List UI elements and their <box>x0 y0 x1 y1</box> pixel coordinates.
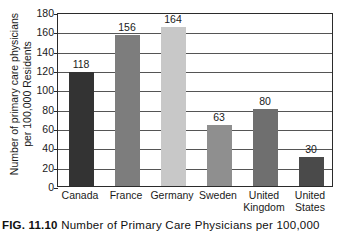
x-category-label-line: United <box>287 190 333 202</box>
bar-value-label: 164 <box>148 14 198 25</box>
x-category-label-line: France <box>103 190 149 202</box>
y-tick-label: 160 <box>26 27 54 37</box>
x-category-label: Sweden <box>195 190 241 202</box>
y-tick-label: 0 <box>26 182 54 192</box>
figure-number: FIG. 11.10 <box>2 219 58 231</box>
bar-value-label: 156 <box>102 22 152 33</box>
bar-value-label: 118 <box>56 59 106 70</box>
figure-caption-text: Number of Primary Care Physicians per 10… <box>61 219 320 231</box>
y-tick-mark <box>54 188 58 189</box>
y-tick-label: 120 <box>26 66 54 76</box>
x-category-label: France <box>103 190 149 202</box>
bar <box>115 35 140 186</box>
y-tick-label: 180 <box>26 8 54 18</box>
bar <box>69 72 94 186</box>
bar-value-label: 80 <box>240 96 290 107</box>
x-axis-category-labels: CanadaFranceGermanySwedenUnitedKingdomUn… <box>57 190 333 216</box>
x-category-label-line: Kingdom <box>241 202 287 214</box>
y-axis-tick-labels: 020406080100120140160180 <box>26 8 54 192</box>
bar <box>299 157 324 186</box>
bar <box>207 125 232 186</box>
x-category-label: UnitedStates <box>287 190 333 213</box>
x-category-label: Canada <box>57 190 103 202</box>
x-category-label-line: Canada <box>57 190 103 202</box>
y-axis-title-line-1: Number of primary care physicians <box>8 13 21 175</box>
x-category-label-line: Germany <box>149 190 195 202</box>
figure-container: Number of primary care physicians per 10… <box>0 0 341 236</box>
x-category-label-line: Sweden <box>195 190 241 202</box>
x-category-label: UnitedKingdom <box>241 190 287 213</box>
bars-layer: 118156164638030 <box>58 14 332 186</box>
y-tick-label: 40 <box>26 143 54 153</box>
y-tick-label: 20 <box>26 163 54 173</box>
y-tick-label: 140 <box>26 47 54 57</box>
bar <box>161 27 186 186</box>
x-category-label-line: States <box>287 202 333 214</box>
y-tick-label: 60 <box>26 124 54 134</box>
bar-value-label: 30 <box>286 144 336 155</box>
bar-value-label: 63 <box>194 112 244 123</box>
x-category-label-line: United <box>241 190 287 202</box>
y-tick-label: 100 <box>26 85 54 95</box>
plot-area: 118156164638030 <box>57 13 333 187</box>
x-category-label: Germany <box>149 190 195 202</box>
y-tick-label: 80 <box>26 105 54 115</box>
bar <box>253 109 278 186</box>
figure-caption: FIG. 11.10 Number of Primary Care Physic… <box>2 218 341 232</box>
